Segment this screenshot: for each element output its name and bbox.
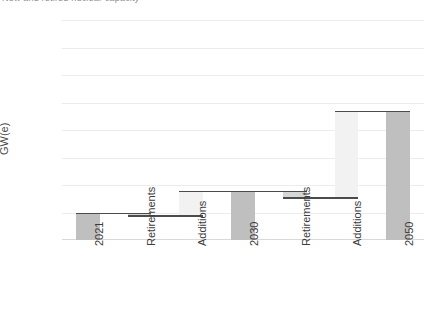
waterfall-chart: GW(e) 01020304050607080 2021RetirementsA… xyxy=(0,0,427,310)
connector-line xyxy=(335,111,411,113)
gridline xyxy=(62,158,424,159)
connector-line xyxy=(231,191,307,193)
gridline xyxy=(62,130,424,131)
connector-line xyxy=(283,197,359,199)
x-axis-tick-label: Additions xyxy=(351,201,363,246)
gridline xyxy=(62,48,424,49)
x-axis-tick-label: Retirements xyxy=(145,187,157,246)
x-axis-tick-label: 2050 xyxy=(403,222,415,246)
gridline xyxy=(62,185,424,186)
gridline xyxy=(62,20,424,21)
gridline xyxy=(62,75,424,76)
x-axis-tick-label: Additions xyxy=(196,201,208,246)
y-axis-title: GW(e) xyxy=(0,123,10,155)
gridline xyxy=(62,103,424,104)
bar-up xyxy=(335,111,359,198)
plot-area xyxy=(62,20,424,240)
x-axis-tick-label: 2030 xyxy=(248,222,260,246)
x-axis-tick-label: Retirements xyxy=(300,187,312,246)
connector-line xyxy=(128,215,204,217)
connector-line xyxy=(76,213,152,215)
x-axis-tick-label: 2021 xyxy=(93,222,105,246)
